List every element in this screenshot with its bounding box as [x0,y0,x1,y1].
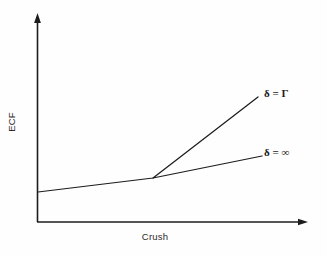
series-label-delta-infinity: δ = ∞ [264,146,289,158]
y-axis-arrow-icon [34,13,41,23]
chart-figure: ECF Crush δ = Γ δ = ∞ [0,0,327,257]
series-label-delta-gamma: δ = Γ [264,87,288,99]
x-axis-label: Crush [107,231,203,242]
y-axis-label: ECF [6,96,17,148]
series-line-delta-gamma [153,97,258,178]
series-line-delta-infinity [38,156,262,192]
x-axis-arrow-icon [298,219,308,226]
plot-area [0,0,327,257]
